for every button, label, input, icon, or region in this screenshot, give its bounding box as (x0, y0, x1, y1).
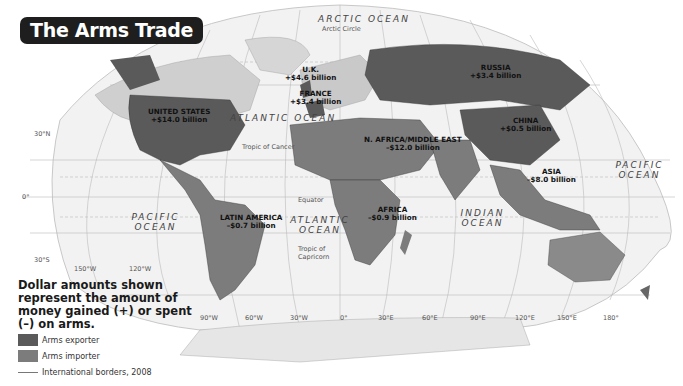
legend-item-exporter: Arms exporter (18, 333, 208, 347)
border-line-swatch (18, 372, 38, 373)
region-label-russia: RUSSIA+$3.4 billion (470, 64, 521, 80)
region-label-asia: ASIA–$8.0 billion (527, 168, 576, 184)
region-label-africa: AFRICA–$0.9 billion (368, 206, 417, 222)
region-label-uk: U.K.+$4.6 billion (285, 66, 336, 82)
lon-label: 120°W (129, 265, 151, 273)
lon-label: 30°E (378, 314, 394, 322)
lon-label: 150°W (74, 265, 96, 273)
arctic-circle-label: Arctic Circle (322, 25, 361, 33)
ocean-label-pacific-west: PACIFIC OCEAN (612, 160, 667, 180)
equator-label: Equator (298, 196, 324, 204)
map-legend: Dollar amounts shown represent the amoun… (18, 279, 208, 379)
ocean-label-arctic: ARCTIC OCEAN (318, 14, 410, 24)
exporter-swatch (18, 334, 38, 346)
tropic-cancer-label: Tropic of Cancer (242, 143, 294, 151)
legend-item-importer: Arms importer (18, 349, 208, 363)
lon-label: 120°E (515, 314, 535, 322)
ocean-label-atlantic-south: ATLANTIC OCEAN (290, 215, 350, 235)
legend-title: Dollar amounts shown represent the amoun… (18, 279, 208, 331)
region-label-china: CHINA+$0.5 billion (500, 117, 551, 133)
lon-label: 60°W (245, 314, 263, 322)
map-title: The Arms Trade (20, 17, 203, 44)
tropic-capricorn-label: Tropic of Capricorn (298, 245, 338, 261)
lat-label: 0° (22, 193, 29, 201)
lat-label: 30°S (34, 256, 50, 264)
importer-swatch (18, 350, 38, 362)
ocean-label-atlantic-north: ATLANTIC OCEAN (230, 113, 336, 123)
legend-item-borders: International borders, 2008 (18, 365, 208, 379)
lon-label: 180° (603, 314, 619, 322)
lon-label: 90°E (470, 314, 486, 322)
lon-label: 150°E (557, 314, 577, 322)
region-label-united-states: UNITED STATES+$14.0 billion (148, 108, 210, 124)
region-label-latin-america: LATIN AMERICA–$0.7 billion (220, 214, 282, 230)
ocean-label-pacific-east: PACIFIC OCEAN (128, 212, 183, 232)
lat-label: 30°N (34, 130, 50, 138)
region-label-n-africa-middle-east: N. AFRICA/MIDDLE EAST–$12.0 billion (364, 136, 462, 152)
lon-label: 60°E (422, 314, 438, 322)
ocean-label-indian: INDIAN OCEAN (455, 208, 510, 228)
lon-label: 30°W (290, 314, 308, 322)
region-label-france: FRANCE+$3.4 billion (290, 90, 341, 106)
lon-label: 0° (340, 314, 347, 322)
